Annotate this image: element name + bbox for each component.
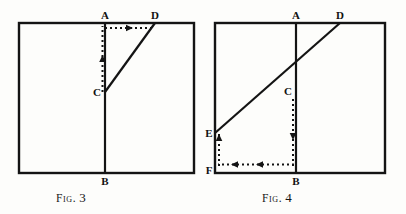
fig3-vertex-label-A: A — [101, 9, 109, 21]
figure-3-caption-number: 3 — [76, 190, 86, 205]
fig4-vertex-label-A: A — [292, 9, 300, 21]
figure-4-group: A B C D E F — [205, 9, 385, 187]
fig4-frame-rectangle — [215, 23, 385, 173]
fig3-arrow-right-icon — [126, 25, 133, 31]
fig4-arrow-left-icon-2 — [231, 161, 238, 167]
fig3-segment-CD — [105, 23, 155, 92]
figure-3-caption-word: Fig. — [56, 192, 76, 204]
fig3-frame-rectangle — [19, 23, 194, 173]
fig4-vertex-label-C: C — [284, 85, 292, 97]
figure-4-caption: Fig.4 — [262, 190, 292, 206]
fig4-arrow-up-icon — [216, 134, 223, 141]
fig3-vertex-label-B: B — [101, 175, 109, 187]
figure-3-group: A B C D — [19, 9, 194, 187]
fig4-vertex-label-D: D — [336, 9, 344, 21]
figure-4-caption-number: 4 — [282, 190, 292, 205]
figure-4-caption-word: Fig. — [262, 192, 282, 204]
fig4-vertex-label-E: E — [205, 127, 212, 139]
fig4-segment-ED — [215, 23, 340, 133]
fig3-vertex-label-C: C — [93, 86, 101, 98]
fig4-vertex-label-B: B — [292, 175, 300, 187]
figure-3-caption: Fig.3 — [56, 190, 86, 206]
figure-plate: A B C D A B C D E F Fig.3 F — [0, 0, 406, 214]
fig4-arrow-left-icon-1 — [256, 161, 263, 167]
figures-drawing: A B C D A B C D E F — [0, 0, 406, 214]
fig4-vertex-label-F: F — [206, 164, 213, 176]
fig3-vertex-label-D: D — [151, 9, 159, 21]
